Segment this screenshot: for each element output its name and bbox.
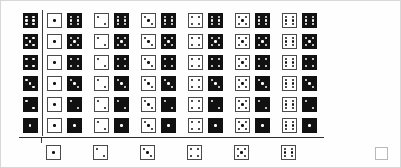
table-cell[interactable]: [93, 118, 140, 133]
table-cell[interactable]: [187, 97, 234, 112]
die-pip: [308, 40, 311, 43]
die-pip: [305, 37, 308, 40]
die-pip: [245, 58, 248, 61]
die-pip: [292, 19, 295, 22]
table-cell[interactable]: [234, 76, 281, 91]
table-cell[interactable]: [140, 13, 187, 28]
die-pip: [120, 40, 123, 43]
row-header-die[interactable]: [19, 13, 41, 28]
die-pip: [211, 79, 214, 82]
table-cell[interactable]: [140, 97, 187, 112]
die-pip: [191, 44, 194, 47]
result-die-face: [208, 76, 223, 91]
table-cell[interactable]: [93, 97, 140, 112]
operand-die-face: [188, 55, 203, 70]
die-pip: [284, 151, 287, 154]
operand-die-face: [188, 97, 203, 112]
die-pip: [285, 44, 288, 47]
die-pip: [241, 61, 244, 64]
row-header-die[interactable]: [19, 97, 41, 112]
cell-operand-die: [187, 34, 204, 49]
die-pip: [53, 40, 56, 43]
die-pip: [238, 107, 241, 110]
result-die-face: [161, 55, 176, 70]
table-cell[interactable]: [140, 118, 187, 133]
table-cell[interactable]: [234, 34, 281, 49]
table-cell[interactable]: [46, 34, 93, 49]
footer-cell[interactable]: [233, 145, 280, 160]
cell-result-die: [113, 76, 130, 91]
footer-cell[interactable]: [92, 145, 139, 160]
row-header-die-face: [23, 76, 38, 91]
cell-operand-die: [93, 13, 110, 28]
cell-result-die: [301, 13, 318, 28]
table-cell[interactable]: [93, 55, 140, 70]
table-cell[interactable]: [46, 55, 93, 70]
die-pip: [32, 107, 35, 110]
table-cell[interactable]: [187, 55, 234, 70]
table-cell[interactable]: [140, 34, 187, 49]
die-pip: [218, 19, 221, 22]
footer-cell[interactable]: [186, 145, 233, 160]
die-pip: [70, 37, 73, 40]
table-cell[interactable]: [140, 76, 187, 91]
die-pip: [198, 16, 201, 19]
table-cell[interactable]: [93, 34, 140, 49]
operand-die-face: [94, 55, 109, 70]
table-cell[interactable]: [187, 34, 234, 49]
result-die-face: [161, 34, 176, 49]
die-pip: [305, 19, 308, 22]
footer-cell[interactable]: [280, 145, 327, 160]
table-cell[interactable]: [234, 13, 281, 28]
die-pip: [312, 86, 315, 89]
operand-die-face: [282, 34, 297, 49]
table-cell[interactable]: [281, 55, 328, 70]
die-pip: [144, 58, 147, 61]
die-pip: [214, 40, 217, 43]
vertical-rule: [42, 94, 43, 115]
table-cell[interactable]: [46, 76, 93, 91]
table-cell[interactable]: [46, 13, 93, 28]
cell-operand-die: [234, 13, 251, 28]
table-cell[interactable]: [281, 13, 328, 28]
die-pip: [211, 37, 214, 40]
result-die-face: [302, 97, 317, 112]
die-pip: [117, 19, 120, 22]
die-pip: [191, 121, 194, 124]
table-cell[interactable]: [234, 97, 281, 112]
die-pip: [117, 79, 120, 82]
row-header-die[interactable]: [19, 55, 41, 70]
die-pip: [171, 58, 174, 61]
die-pip: [171, 65, 174, 68]
table-cell[interactable]: [281, 76, 328, 91]
table-cell[interactable]: [234, 55, 281, 70]
footer-cell[interactable]: [45, 145, 92, 160]
die-pip: [164, 58, 167, 61]
row-header-die[interactable]: [19, 76, 41, 91]
table-cell[interactable]: [281, 97, 328, 112]
table-cell[interactable]: [93, 13, 140, 28]
row-header-die[interactable]: [19, 118, 41, 133]
table-cell[interactable]: [140, 55, 187, 70]
table-cell[interactable]: [46, 118, 93, 133]
result-die-face: [114, 97, 129, 112]
table-cell[interactable]: [281, 34, 328, 49]
die-pip: [292, 44, 295, 47]
table-cell[interactable]: [187, 118, 234, 133]
table-cell[interactable]: [187, 13, 234, 28]
cell-result-die: [301, 118, 318, 133]
table-cell[interactable]: [46, 97, 93, 112]
empty-square[interactable]: [375, 147, 388, 160]
row-header-die[interactable]: [19, 34, 41, 49]
die-pip: [70, 23, 73, 26]
table-cell[interactable]: [93, 76, 140, 91]
footer-cell[interactable]: [139, 145, 186, 160]
cell-operand-die: [140, 13, 157, 28]
table-cell[interactable]: [234, 118, 281, 133]
die-pip: [292, 23, 295, 26]
die-pip: [238, 58, 241, 61]
table-cell[interactable]: [187, 76, 234, 91]
table-cell[interactable]: [281, 118, 328, 133]
die-pip: [144, 79, 147, 82]
cell-operand-die: [234, 55, 251, 70]
